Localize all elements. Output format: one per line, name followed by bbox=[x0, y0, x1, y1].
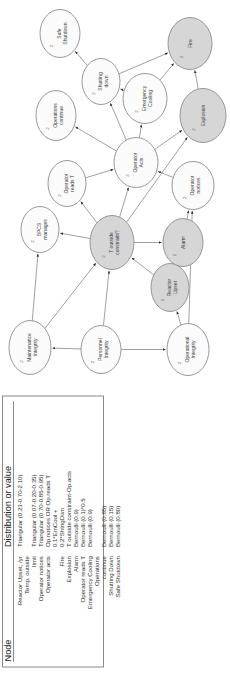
table-row: Fire0.2*ShtngDwn bbox=[58, 401, 65, 661]
diagram-edge bbox=[158, 171, 173, 177]
diagram-node-personnel_integrity[interactable]: 2PersonnelIntegrity bbox=[81, 325, 121, 373]
node-label-line1: Alarm bbox=[180, 235, 186, 248]
table-row: Operator noticesTriangular (0.70-0.85-0.… bbox=[37, 401, 44, 661]
diagram-edge bbox=[45, 263, 96, 328]
node-label-line2: Cooling bbox=[147, 89, 153, 106]
cell-distribution-value: Bernoulli (0.9) bbox=[86, 401, 93, 547]
column-header-node: Node bbox=[5, 547, 14, 661]
node-label-line1: Fire bbox=[187, 38, 193, 47]
column-header-distribution: Distribution or value bbox=[5, 401, 14, 547]
node-label-line1: Explosion bbox=[200, 104, 206, 126]
diagram-edge bbox=[60, 233, 90, 238]
diagram-node-operator_acts[interactable]: 2OperatorActs bbox=[114, 137, 158, 187]
cell-node-name: Fire bbox=[58, 547, 65, 661]
diagram-edge bbox=[85, 169, 113, 177]
table-row: limitTriangular (0.07-0.20-0.35) bbox=[30, 401, 37, 661]
diagram-edge bbox=[75, 126, 116, 150]
table-body: Reactor Upset, /yrTriangular (0.23-0.70-… bbox=[14, 401, 121, 661]
influence-diagram-canvas: 2OperationalIntegrity2PersonnelIntegrity… bbox=[0, 0, 230, 383]
node-state-count: 2 bbox=[91, 91, 96, 94]
diagram-edge bbox=[32, 253, 38, 320]
node-distribution-table: Node Distribution or value Reactor Upset… bbox=[5, 401, 121, 661]
diagram-node-safe_shutdown[interactable]: 2SafeShutdown bbox=[40, 9, 80, 57]
node-state-count: 2 bbox=[49, 44, 54, 47]
diagram-node-t_outside_constraint[interactable]: 2T outsideconstraint? bbox=[90, 215, 134, 269]
diagram-node-operator_reads_t[interactable]: 2Operatorreads T bbox=[48, 160, 86, 206]
diagram-node-operations_continue[interactable]: 2Operationscontinue bbox=[36, 90, 76, 140]
node-label-line2: continue bbox=[58, 105, 64, 124]
scanned-page: Node Distribution or value Reactor Upset… bbox=[0, 0, 230, 683]
diagram-edge bbox=[52, 348, 81, 349]
table-row: Emergency CoolingBernoulli (0.9) bbox=[86, 401, 93, 661]
diagram-node-reactor_upset[interactable]: 2ReactorUpset bbox=[151, 263, 189, 311]
diagram-edge bbox=[81, 201, 97, 222]
cell-node-name: Operator reads T bbox=[79, 547, 86, 661]
node-state-count: 2 bbox=[177, 361, 182, 364]
table-row: continueBernoulli (0.85) bbox=[100, 401, 107, 661]
cell-node-name: Alarm bbox=[72, 547, 79, 661]
cell-distribution-value: Bernoulli (0.80) bbox=[114, 401, 121, 547]
diagram-edge bbox=[119, 52, 168, 73]
table-row: AlarmBernoulli (0.9) bbox=[72, 401, 79, 661]
node-distribution-table-panel: Node Distribution or value Reactor Upset… bbox=[2, 395, 104, 667]
cell-node-name: Operator acts bbox=[44, 547, 51, 661]
table-row: Safe ShutdownBernoulli (0.80) bbox=[114, 401, 121, 661]
cell-node-name bbox=[51, 547, 58, 661]
table-row: Operator actsOp.notices OR Op.reads T bbox=[44, 401, 51, 661]
node-label-line2: notices bbox=[195, 177, 201, 193]
cell-node-name: continue bbox=[100, 547, 107, 661]
table-row: Operator reads TBernoulli (0.1)*0.5 bbox=[79, 401, 86, 661]
node-label-line2: down bbox=[103, 75, 109, 87]
cell-node-name: Reactor Upset, /yr bbox=[14, 547, 23, 661]
diagram-edge bbox=[160, 63, 174, 80]
node-layer: 2OperationalIntegrity2PersonnelIntegrity… bbox=[9, 9, 226, 375]
diagram-node-fire[interactable]: 2Fire bbox=[168, 17, 212, 69]
cell-distribution-value: Bernoulli (0.15) bbox=[107, 401, 114, 547]
diagram-edge bbox=[177, 311, 181, 325]
cell-distribution-value bbox=[93, 401, 100, 547]
cell-node-name: Shutting Down bbox=[107, 547, 114, 661]
node-label-line2: Upset bbox=[172, 280, 178, 294]
cell-distribution-value: 0.1*EmCool + bbox=[51, 401, 58, 547]
diagram-edge bbox=[155, 130, 182, 149]
diagram-edge bbox=[132, 257, 154, 274]
diagram-node-operational_integrity[interactable]: 2OperationalIntegrity bbox=[167, 323, 209, 375]
diagram-node-maintenance_integrity[interactable]: 2MaintenanceIntegrity bbox=[9, 320, 51, 374]
diagram-edge bbox=[75, 51, 87, 65]
cell-node-name: Operations bbox=[93, 547, 100, 661]
node-label-line2: Integrity bbox=[190, 340, 196, 358]
node-state-count: 2 bbox=[30, 239, 35, 242]
cell-distribution-value: Op.notices OR Op.reads T bbox=[44, 401, 51, 547]
cell-distribution-value: Bernoulli (0.85) bbox=[100, 401, 107, 547]
node-state-count: 2 bbox=[45, 126, 50, 129]
node-state-count: 2 bbox=[101, 254, 106, 257]
table-row: ExplosionT outside constraint-Op.acts bbox=[65, 401, 72, 661]
table-row: Temp. outside bbox=[23, 401, 30, 661]
cell-node-name: Operator notices bbox=[37, 547, 44, 661]
cell-distribution-value: Bernoulli (0.9) bbox=[72, 401, 79, 547]
cell-distribution-value bbox=[23, 401, 30, 547]
diagram-edge bbox=[187, 210, 188, 219]
diagram-node-explosion[interactable]: 2Explosion bbox=[180, 88, 226, 142]
node-label-line2: Acts bbox=[138, 157, 144, 167]
diagram-edge bbox=[120, 187, 129, 217]
cell-distribution-value: 0.2*ShtngDwn bbox=[58, 401, 65, 547]
node-state-count: 2 bbox=[125, 173, 130, 176]
diagram-edge bbox=[110, 103, 126, 140]
diagram-node-shutting_down[interactable]: 2Shuttingdown bbox=[82, 58, 120, 104]
diagram-edge bbox=[103, 270, 109, 325]
node-state-count: 2 bbox=[134, 109, 139, 112]
diagram-node-bpcs_manages[interactable]: 2BPCSmanages bbox=[21, 206, 59, 252]
node-state-count: 2 bbox=[179, 55, 184, 58]
cell-node-name: Safe Shutdown bbox=[114, 547, 121, 661]
cell-distribution-value: Triangular (0.07-0.20-0.35) bbox=[30, 401, 37, 547]
node-label-line2: constraint? bbox=[114, 230, 120, 255]
diagram-node-alarm[interactable]: 2Alarm bbox=[163, 218, 203, 266]
node-state-count: 2 bbox=[19, 359, 24, 362]
diagram-node-emergency_cooling[interactable]: 2EmergencyCooling bbox=[123, 73, 167, 123]
table-row: Reactor Upset, /yrTriangular (0.23-0.70-… bbox=[14, 401, 23, 661]
node-label-line2: Shutdown bbox=[62, 22, 68, 44]
table-row: 0.1*EmCool + bbox=[51, 401, 58, 661]
diagram-node-operator_notices[interactable]: 2Operatornotices bbox=[172, 161, 214, 209]
table-row: Operations bbox=[93, 401, 100, 661]
